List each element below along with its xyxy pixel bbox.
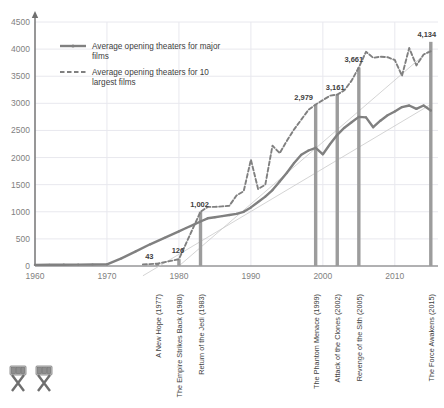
series-point: [48, 264, 50, 266]
series-point: [423, 104, 425, 106]
series-point: [243, 211, 245, 213]
y-axis-tick-label: 3500: [11, 71, 30, 81]
x-axis-tick-label: 2000: [313, 271, 332, 281]
series-point: [163, 237, 165, 239]
series-point: [34, 264, 36, 266]
series-point: [343, 127, 345, 129]
series-point: [91, 263, 93, 265]
film-axis-label: A New Hope (1977): [154, 294, 163, 358]
series-point: [135, 250, 137, 252]
series-point: [336, 134, 338, 136]
y-axis-tick-label: 1500: [11, 180, 30, 190]
series-point: [394, 110, 396, 112]
series-point: [257, 201, 259, 203]
series-point: [300, 154, 302, 156]
series-point: [387, 114, 389, 116]
series-point: [372, 126, 374, 128]
film-axis-label: The Force Awakens (2015): [427, 294, 436, 381]
series-point: [120, 257, 122, 259]
series-point: [149, 243, 151, 245]
series-point: [315, 147, 317, 149]
series-point: [286, 172, 288, 174]
series-point: [199, 220, 201, 222]
series-point: [279, 180, 281, 182]
chart-container: 0500100015002000250030003500400045001960…: [0, 0, 444, 408]
y-axis-tick-label: 3000: [11, 98, 30, 108]
data-value-label: 3,161: [326, 83, 345, 92]
series-line: [143, 48, 431, 264]
x-axis-tick-label: 1970: [98, 271, 117, 281]
series-point: [415, 108, 417, 110]
series-point: [379, 120, 381, 122]
film-axis-label: Return of the Jedi (1983): [197, 294, 206, 375]
film-axis-label: Revenge of the Sith (2005): [355, 294, 364, 381]
series-point: [250, 206, 252, 208]
series-line: [35, 106, 431, 265]
y-axis-tick-label: 0: [25, 261, 30, 271]
series-point: [408, 104, 410, 106]
y-axis-tick-label: 1000: [11, 207, 30, 217]
series-point: [264, 195, 266, 197]
series-point: [207, 217, 209, 219]
series-point: [293, 162, 295, 164]
series-point: [228, 214, 230, 216]
series-point: [63, 264, 65, 266]
series-point: [214, 216, 216, 218]
series-point: [221, 215, 223, 217]
data-value-label: 2,979: [294, 93, 313, 102]
series-point: [271, 189, 273, 191]
x-axis-tick-label: 2010: [385, 271, 404, 281]
film-chair-logo-icon: [6, 360, 62, 400]
data-value-label: 3,661: [344, 55, 363, 64]
series-point: [358, 116, 360, 118]
series-point: [307, 149, 309, 151]
series-point: [178, 230, 180, 232]
x-axis-tick-label: 1960: [26, 271, 45, 281]
film-axis-label: The Phantom Menace (1999): [312, 294, 321, 389]
film-axis-label: The Empire Strikes Back (1980): [175, 294, 184, 397]
series-point: [106, 263, 108, 265]
series-point: [185, 227, 187, 229]
series-point: [365, 116, 367, 118]
series-point: [235, 213, 237, 215]
y-axis-tick-label: 4500: [11, 17, 30, 27]
footer-logo: [6, 360, 62, 400]
series-point: [351, 121, 353, 123]
series-point: [77, 263, 79, 265]
y-axis-tick-label: 4000: [11, 44, 30, 54]
x-axis-tick-label: 1990: [241, 271, 260, 281]
data-value-label: 43: [145, 252, 153, 261]
series-point: [322, 153, 324, 155]
film-axis-label: Attack of the Clones (2002): [333, 294, 342, 382]
legend-label-line2: films: [92, 52, 109, 61]
line-chart: 0500100015002000250030003500400045001960…: [0, 0, 444, 408]
data-value-label: 4,134: [417, 30, 437, 39]
x-axis-tick-label: 1980: [169, 271, 188, 281]
y-axis-tick-label: 500: [16, 234, 30, 244]
legend-label-line1: Average opening theaters for 10: [92, 68, 209, 77]
series-point: [329, 143, 331, 145]
legend-label-line1: Average opening theaters for major: [92, 42, 220, 51]
series-point: [401, 106, 403, 108]
data-value-label: 126: [172, 246, 185, 255]
legend-swatch-marker: [71, 44, 74, 47]
legend-label-line2: largest films: [92, 78, 136, 87]
y-axis-arrow-icon: [32, 11, 38, 18]
series-point: [430, 109, 432, 111]
y-axis-tick-label: 2500: [11, 125, 30, 135]
data-value-label: 1,002: [190, 200, 209, 209]
y-axis-tick-label: 2000: [11, 153, 30, 163]
